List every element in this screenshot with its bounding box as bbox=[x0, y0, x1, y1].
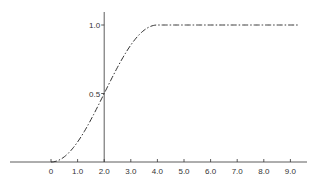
x-tick-label: 1.0 bbox=[72, 167, 84, 176]
x-tick-label: 4.0 bbox=[152, 167, 164, 176]
x-tick-label: 8.0 bbox=[258, 167, 270, 176]
y-tick-label: 1.0 bbox=[89, 21, 101, 30]
x-tick-label: 5.0 bbox=[178, 167, 190, 176]
x-ticks: 01.02.03.04.05.06.07.08.09.0 bbox=[49, 159, 297, 176]
x-tick-label: 2.0 bbox=[99, 167, 111, 176]
x-tick-label: 9.0 bbox=[285, 167, 297, 176]
axes bbox=[10, 12, 307, 162]
chart: 01.02.03.04.05.06.07.08.09.0 0.51.0 bbox=[0, 0, 319, 185]
y-tick-label: 0.5 bbox=[89, 90, 101, 99]
x-tick-label: 3.0 bbox=[125, 167, 137, 176]
x-tick-label: 6.0 bbox=[205, 167, 217, 176]
x-tick-label: 7.0 bbox=[232, 167, 244, 176]
y-ticks: 0.51.0 bbox=[89, 21, 104, 99]
x-tick-label: 0 bbox=[49, 167, 54, 176]
